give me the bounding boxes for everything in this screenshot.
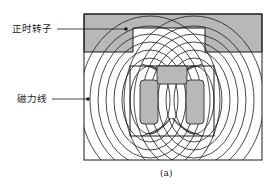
flux-lines-label: 磁力线: [17, 94, 47, 104]
right-coil: [186, 80, 204, 124]
flux-lines-dot: [86, 97, 90, 101]
timing-rotor-label: 正时转子: [12, 24, 52, 34]
left-coil: [140, 80, 158, 124]
figure-caption: (a): [160, 168, 172, 178]
top-pole-piece: [157, 66, 187, 84]
timing-rotor-dot: [124, 27, 128, 31]
